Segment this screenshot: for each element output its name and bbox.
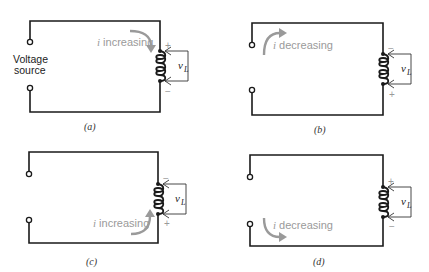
vl-subscript: L <box>406 68 412 77</box>
polarity-bottom-sign: − <box>165 86 171 97</box>
inductor-coil-icon <box>156 49 165 83</box>
polarity-bottom-sign: + <box>164 218 170 229</box>
vl-label: v <box>178 59 183 71</box>
vl-subscript: L <box>183 65 189 74</box>
polarity-bottom-sign: − <box>389 221 395 232</box>
vl-label: v <box>401 62 406 74</box>
terminal-bottom <box>247 221 252 226</box>
terminal-top <box>249 42 254 47</box>
terminal-top <box>247 174 252 179</box>
terminal-bottom <box>27 85 32 90</box>
panel-a: Voltage source v L + − i increasing (a) <box>13 21 189 133</box>
circuit-wire-top <box>29 152 158 185</box>
vl-label: v <box>175 192 180 204</box>
terminal-bottom <box>249 87 254 92</box>
current-label: i decreasing <box>273 219 333 231</box>
inductor-coil-icon <box>379 52 388 86</box>
panel-d: v L + − i decreasing (d) <box>247 155 412 268</box>
circuit-wire-top <box>250 155 383 187</box>
vl-subscript: L <box>180 198 186 207</box>
inductor-coil-icon <box>154 182 163 216</box>
terminal-top <box>27 39 32 44</box>
panel-caption: (b) <box>314 124 326 136</box>
terminal-top <box>26 171 31 176</box>
inductor-coil-icon <box>379 185 388 219</box>
polarity-top-sign: − <box>163 173 169 184</box>
circuit-wire-bottom <box>252 84 383 115</box>
polarity-top-sign: + <box>388 176 394 187</box>
current-label: i increasing <box>97 36 153 48</box>
polarity-top-sign: − <box>388 43 394 54</box>
current-label: i decreasing <box>273 39 333 51</box>
panel-caption: (a) <box>84 121 96 133</box>
current-label: i increasing <box>93 217 149 229</box>
inductor-polarity-figure: Voltage source v L + − i increasing (a) <box>0 0 429 272</box>
polarity-bottom-sign: + <box>389 89 395 100</box>
panel-b: v L − + i decreasing (b) <box>249 23 412 136</box>
panel-caption: (c) <box>86 256 98 268</box>
panel-c: v L − + i increasing (c) <box>26 152 186 268</box>
vl-label: v <box>401 195 406 207</box>
circuit-wire-bottom <box>30 81 160 112</box>
terminal-bottom <box>26 217 31 222</box>
panel-caption: (d) <box>313 256 325 268</box>
polarity-top-sign: + <box>165 40 171 51</box>
vl-subscript: L <box>406 201 412 210</box>
voltage-source-label-line2: source <box>14 64 46 76</box>
